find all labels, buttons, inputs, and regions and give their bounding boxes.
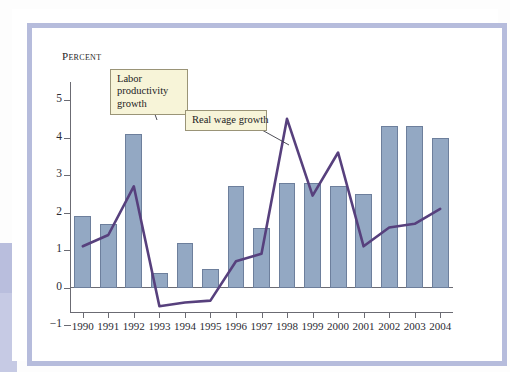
line-series-layer xyxy=(0,0,510,372)
chart-plot-area: Percent −1012345 19901991199219931994199… xyxy=(0,0,510,372)
annotation-labor-productivity-growth: Labor productivity growth xyxy=(110,69,188,115)
figure-root: Percent −1012345 19901991199219931994199… xyxy=(0,0,510,372)
real-wage-growth-line xyxy=(83,119,440,306)
annotation-real-wage-growth: Real wage growth xyxy=(185,110,267,131)
